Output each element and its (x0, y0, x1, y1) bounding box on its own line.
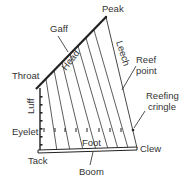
label-throat: Throat (12, 70, 40, 81)
label-luff: Luff (25, 98, 36, 114)
label-foot: Foot (82, 137, 101, 148)
sail-seams (46, 30, 128, 151)
reef-points (44, 128, 121, 132)
label-reefing-cringle-line2: cringle (148, 101, 176, 112)
label-gaff: Gaff (50, 23, 68, 34)
label-reef-point-line2: point (136, 65, 157, 76)
label-reefing-cringle-line1: Reefing (146, 90, 179, 101)
label-head: Head (59, 48, 82, 73)
label-peak: Peak (102, 3, 124, 14)
label-clew: Clew (140, 143, 161, 154)
label-boom: Boom (79, 166, 104, 177)
reefing-cringle-mark (132, 129, 135, 132)
gaff-sail-diagram: Peak Gaff Head Leech Throat Reef point L… (0, 0, 187, 181)
peak-mark (105, 16, 107, 18)
label-reef-point-line1: Reef (136, 54, 156, 65)
label-tack: Tack (28, 155, 48, 166)
label-eyelet: Eyelet (12, 126, 39, 137)
